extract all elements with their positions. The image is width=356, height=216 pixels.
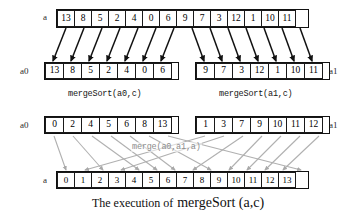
caption-lead-text: The execution of xyxy=(92,196,173,210)
label-output-array: a xyxy=(43,175,47,185)
split-right-cell: 7 xyxy=(214,63,233,79)
label-input-array: a xyxy=(43,12,47,22)
sorted-right-cell: 3 xyxy=(214,117,233,133)
input-cell: 5 xyxy=(91,10,109,27)
split-left-cell: 4 xyxy=(117,63,136,79)
sorted-right-cell: 12 xyxy=(304,117,323,133)
output-cell: 1 xyxy=(74,172,92,188)
input-cell: 9 xyxy=(176,10,194,27)
split-right-cell: 10 xyxy=(286,63,305,79)
output-cell: 2 xyxy=(91,172,109,188)
output-cell: 0 xyxy=(57,172,75,188)
split-left-cell: 6 xyxy=(153,63,172,79)
sorted-right-cell: 1 xyxy=(196,117,215,133)
sorted-left-cell: 2 xyxy=(63,117,82,133)
split-left-cell: 2 xyxy=(99,63,118,79)
output-cell: 12 xyxy=(261,172,279,188)
split-right-array-row: 9731211011 xyxy=(196,63,323,79)
call-label-mergesort-left: mergeSort(a0,c) xyxy=(68,89,142,99)
output-cell: 7 xyxy=(176,172,194,188)
input-cell: 3 xyxy=(210,10,228,27)
caption-code-text: mergeSort (a,c) xyxy=(177,195,264,210)
sorted-left-cell: 6 xyxy=(117,117,136,133)
label-sorted-right: a1 xyxy=(329,120,338,130)
label-split-left: a0 xyxy=(20,66,29,76)
mergesort-execution-figure: a 138524069731211011 a0 13852406 a1 9731… xyxy=(0,0,356,216)
label-sorted-left: a0 xyxy=(20,120,29,130)
sorted-left-cell: 13 xyxy=(153,117,172,133)
split-right-cell: 3 xyxy=(232,63,251,79)
sorted-right-cell: 7 xyxy=(232,117,251,133)
output-cell: 4 xyxy=(125,172,143,188)
output-cell: 13 xyxy=(278,172,296,188)
call-label-merge: merge(a0,a1,a) xyxy=(131,142,202,152)
output-cell: 9 xyxy=(210,172,228,188)
input-cell: 8 xyxy=(74,10,92,27)
call-label-mergesort-right: mergeSort(a1,c) xyxy=(219,89,293,99)
input-cell: 10 xyxy=(261,10,279,27)
output-cell: 11 xyxy=(244,172,262,188)
split-left-array-row: 13852406 xyxy=(45,63,172,79)
split-left-cell: 8 xyxy=(63,63,82,79)
split-arrows-left xyxy=(53,28,174,61)
sorted-left-cell: 8 xyxy=(135,117,154,133)
output-cell: 5 xyxy=(142,172,160,188)
split-right-cell: 11 xyxy=(304,63,323,79)
output-cell: 3 xyxy=(108,172,126,188)
input-cell: 6 xyxy=(159,10,177,27)
input-cell: 13 xyxy=(57,10,75,27)
split-right-cell: 9 xyxy=(196,63,215,79)
input-array-row: 138524069731211011 xyxy=(57,10,296,27)
output-array-row: 012345678910111213 xyxy=(57,172,296,188)
sorted-left-cell: 0 xyxy=(45,117,64,133)
input-cell: 7 xyxy=(193,10,211,27)
split-arrows-right xyxy=(192,28,312,61)
split-right-cell: 12 xyxy=(250,63,269,79)
input-cell: 11 xyxy=(278,10,296,27)
sorted-left-cell: 4 xyxy=(81,117,100,133)
sorted-right-array-row: 1379101112 xyxy=(196,117,323,133)
split-right-cell: 1 xyxy=(268,63,287,79)
merge-arrows-right xyxy=(85,136,319,170)
split-left-cell: 0 xyxy=(135,63,154,79)
sorted-right-cell: 11 xyxy=(286,117,305,133)
figure-caption: The execution of mergeSort (a,c) xyxy=(0,193,356,211)
output-cell: 10 xyxy=(227,172,245,188)
input-cell: 12 xyxy=(227,10,245,27)
input-cell: 0 xyxy=(142,10,160,27)
input-cell: 2 xyxy=(108,10,126,27)
sorted-right-cell: 10 xyxy=(268,117,287,133)
sorted-left-array-row: 02456813 xyxy=(45,117,172,133)
sorted-left-cell: 5 xyxy=(99,117,118,133)
label-split-right: a1 xyxy=(329,66,338,76)
split-left-cell: 5 xyxy=(81,63,100,79)
output-cell: 8 xyxy=(193,172,211,188)
input-cell: 4 xyxy=(125,10,143,27)
sorted-right-cell: 9 xyxy=(250,117,269,133)
split-left-cell: 13 xyxy=(45,63,64,79)
input-cell: 1 xyxy=(244,10,262,27)
output-cell: 6 xyxy=(159,172,177,188)
